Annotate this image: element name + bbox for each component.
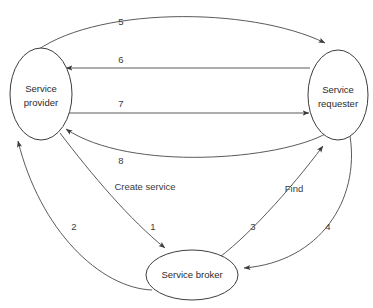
edge-label-3: 3	[250, 221, 255, 232]
edge-label-4: 4	[325, 221, 330, 232]
edge-8-path	[66, 129, 327, 157]
node-service-requester[interactable]: Service requester	[308, 50, 368, 140]
service-requester-ellipse[interactable]	[308, 50, 368, 140]
edge-3-path	[213, 146, 323, 262]
service-provider-label-line1: Service	[25, 83, 57, 94]
edge-4-path	[244, 136, 352, 268]
node-service-provider[interactable]: Service provider	[10, 48, 72, 140]
annotation-create-service: Create service	[114, 181, 175, 192]
service-requester-label-line1: Service	[322, 84, 354, 95]
edge-label-2: 2	[71, 221, 76, 232]
edge-label-8: 8	[118, 155, 123, 166]
edge-label-1: 1	[150, 221, 155, 232]
service-provider-ellipse[interactable]	[10, 48, 72, 140]
service-architecture-diagram: Service provider Service requester Servi…	[0, 0, 373, 308]
edge-label-6: 6	[118, 54, 123, 65]
diagram-canvas: Service provider Service requester Servi…	[0, 0, 373, 308]
service-broker-label: Service broker	[161, 269, 222, 280]
service-provider-label-line2: provider	[24, 97, 58, 108]
edge-2-path	[18, 141, 152, 290]
edge-label-5: 5	[118, 16, 123, 27]
service-requester-label-line2: requester	[318, 98, 358, 109]
node-service-broker[interactable]: Service broker	[146, 250, 238, 300]
edge-5-path	[31, 17, 325, 55]
edge-label-7: 7	[118, 98, 123, 109]
annotation-find: Find	[285, 183, 303, 194]
